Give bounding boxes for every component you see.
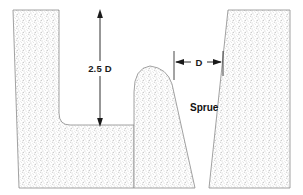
depth-dimension-label: 2.5 D: [88, 63, 112, 74]
width-dimension-group: D: [174, 51, 223, 80]
sprue-label: Sprue: [190, 102, 219, 113]
depth-dimension-group: 2.5 D: [83, 9, 117, 127]
width-arrow-right-icon: [213, 59, 222, 65]
mold-cross-section-svg: 2.5 D D Sprue: [0, 0, 303, 195]
width-dimension-label: D: [195, 57, 202, 68]
mold-diagram: 2.5 D D Sprue: [0, 0, 303, 195]
center-sand-ridge: [134, 66, 195, 188]
left-sand-block: [13, 10, 134, 188]
depth-arrow-up-icon: [97, 9, 103, 18]
width-arrow-left-icon: [175, 59, 184, 65]
right-sand-block: [209, 10, 290, 188]
